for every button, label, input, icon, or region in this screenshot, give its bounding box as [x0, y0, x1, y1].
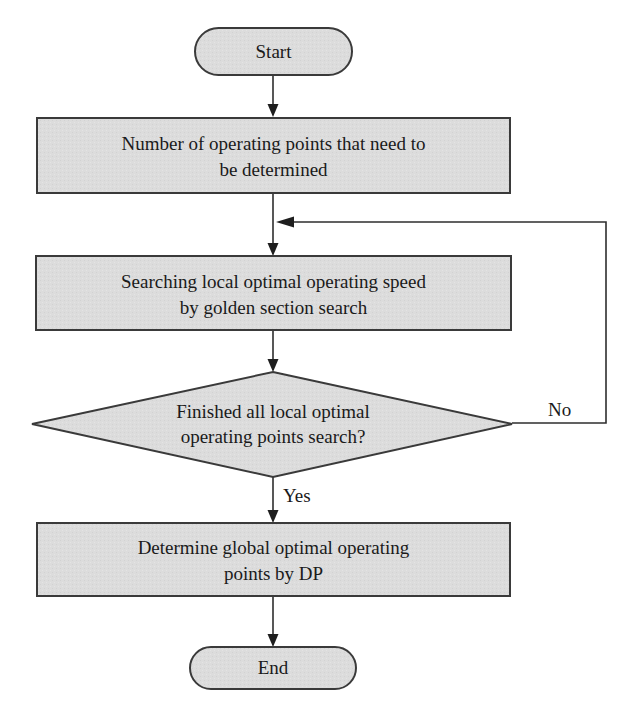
start-label: Start	[256, 41, 293, 62]
end-label: End	[258, 657, 289, 678]
finished-check-label-line-1: Finished all local optimal	[176, 401, 370, 422]
arrow-down-icon	[268, 243, 279, 256]
count-points-label-line-1: Number of operating points that need to	[122, 133, 426, 154]
edge-local-search-to-finished-check	[268, 330, 279, 372]
local-search-process-box	[36, 256, 511, 330]
finished-check-node: Finished all local optimal operating poi…	[32, 372, 512, 477]
arrow-down-icon	[268, 634, 279, 647]
local-search-label-line-1: Searching local optimal operating speed	[121, 271, 426, 292]
global-dp-label-line-2: points by DP	[224, 563, 323, 584]
arrow-left-icon	[276, 217, 294, 228]
finished-check-decision-diamond	[32, 372, 512, 477]
local-search-label-line-2: by golden section search	[180, 297, 368, 318]
global-dp-label-line-1: Determine global optimal operating	[138, 537, 410, 558]
arrow-down-icon	[268, 510, 279, 523]
global-dp-node: Determine global optimal operating point…	[37, 523, 510, 596]
start-node: Start	[195, 28, 352, 75]
end-node: End	[190, 647, 356, 689]
arrow-down-icon	[268, 104, 279, 117]
edge-start-to-count-points	[268, 75, 279, 117]
yes-label: Yes	[283, 485, 311, 506]
count-points-node: Number of operating points that need to …	[37, 118, 510, 193]
count-points-label-line-2: be determined	[219, 159, 328, 180]
finished-check-label-line-2: operating points search?	[181, 426, 366, 447]
edge-count-points-to-local-search	[268, 193, 279, 256]
arrow-down-icon	[268, 359, 279, 372]
local-search-node: Searching local optimal operating speed …	[36, 256, 511, 330]
no-label: No	[548, 399, 571, 420]
edge-yes-to-global-dp: Yes	[268, 477, 311, 523]
flowchart: Yes No Start Number of operating points …	[0, 0, 628, 716]
global-dp-process-box	[37, 523, 510, 596]
count-points-process-box	[37, 118, 510, 193]
edge-global-dp-to-end	[268, 596, 279, 647]
